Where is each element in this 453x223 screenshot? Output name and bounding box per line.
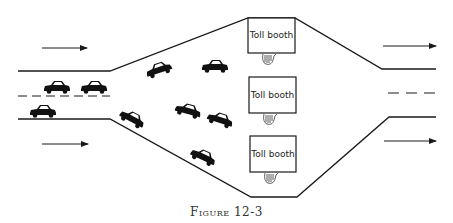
car-icon bbox=[44, 81, 70, 94]
booth-label: Toll booth bbox=[250, 149, 294, 159]
car-icon bbox=[118, 107, 147, 131]
attendant-hand-icon bbox=[264, 114, 277, 124]
car-icon bbox=[206, 109, 235, 129]
car-icon bbox=[144, 59, 173, 79]
toll-booth: Toll booth bbox=[250, 136, 296, 183]
attendant-hand-icon bbox=[265, 173, 278, 183]
car-icon bbox=[174, 101, 202, 120]
toll-plaza-diagram: Toll booth Toll booth Toll booth bbox=[0, 0, 453, 223]
caption-word: Figure bbox=[190, 205, 229, 219]
toll-booth: Toll booth bbox=[248, 18, 295, 64]
car-icon bbox=[202, 60, 228, 73]
booth-label: Toll booth bbox=[250, 90, 294, 100]
toll-booth: Toll booth bbox=[249, 77, 296, 124]
road-edge-bottom bbox=[18, 117, 436, 197]
car-icon bbox=[81, 81, 107, 94]
road-edges bbox=[18, 18, 436, 197]
cars bbox=[30, 59, 235, 167]
booth-label: Toll booth bbox=[249, 30, 293, 40]
car-icon bbox=[30, 105, 56, 118]
road-edge-top bbox=[18, 18, 436, 71]
direction-arrows bbox=[42, 46, 436, 144]
attendant-hand-icon bbox=[263, 54, 276, 64]
figure-caption: Figure 12-3 bbox=[0, 205, 453, 219]
caption-number: 12-3 bbox=[234, 205, 263, 219]
